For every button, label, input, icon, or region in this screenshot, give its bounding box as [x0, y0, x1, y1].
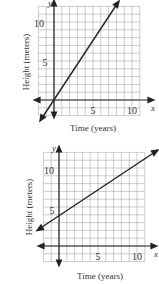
axes [34, 0, 154, 118]
y-axis-name: y [51, 143, 56, 153]
x-tick-5: 5 [91, 105, 96, 116]
x-axis-name: x [150, 103, 155, 113]
axes [38, 146, 157, 266]
y-tick-10: 10 [44, 165, 54, 176]
y-tick-10: 10 [34, 18, 44, 29]
x-tick-5: 5 [96, 251, 101, 262]
y-tick-5: 5 [50, 205, 55, 216]
y-axis-label: Height (meters) [24, 179, 34, 236]
x-axis-name: x [153, 249, 158, 259]
chart-top: 10 5 5 10 x y Time (years) Height (meter… [0, 0, 159, 142]
x-tick-10: 10 [132, 251, 142, 262]
x-axis-label: Time (years) [77, 271, 123, 281]
y-axis-name: y [47, 0, 52, 8]
y-axis-label: Height (meters) [21, 34, 31, 91]
y-tick-5: 5 [43, 57, 48, 68]
x-tick-10: 10 [127, 105, 137, 116]
x-axis-label: Time (years) [70, 123, 116, 133]
data-line [37, 150, 158, 231]
chart-bottom: 10 5 5 10 x y Time (years) Height (meter… [0, 142, 159, 284]
